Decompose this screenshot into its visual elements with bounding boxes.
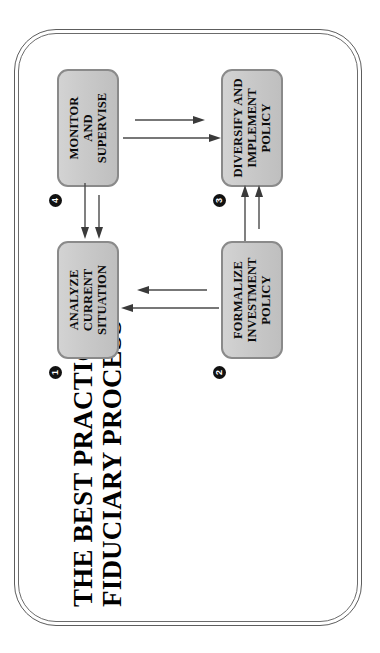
step-badge-2: 2 — [213, 366, 226, 379]
process-node-monitor-and-supervise[interactable]: MONITOR AND SUPERVISE — [57, 69, 119, 187]
process-node-label: ANALYZE CURRENT SITUATION — [67, 261, 110, 337]
process-node-analyze-current-situation[interactable]: ANALYZE CURRENT SITUATION — [57, 241, 119, 359]
connector-arrow-2-to-3 — [237, 183, 267, 241]
diagram-page: THE BEST PRACTICES FIDUCIARY PROCESS ANA… — [0, 0, 380, 653]
connector-arrow-3-to-4 — [119, 109, 223, 145]
process-node-label: FORMALIZE INVESTMENT POLICY — [231, 254, 274, 345]
connector-arrow-4-to-1 — [77, 183, 107, 241]
page-title: THE BEST PRACTICES FIDUCIARY PROCESS — [69, 389, 126, 607]
process-node-label: MONITOR AND SUPERVISE — [67, 89, 110, 166]
process-node-diversify-and-implement-policy[interactable]: DIVERSIFY AND IMPLEMENT POLICY — [221, 69, 283, 187]
step-badge-1: 1 — [49, 366, 62, 379]
process-node-label: DIVERSIFY AND IMPLEMENT POLICY — [231, 75, 274, 180]
connector-arrow-1-to-2 — [119, 279, 223, 315]
step-badge-3: 3 — [213, 194, 226, 207]
diagram-stage: THE BEST PRACTICES FIDUCIARY PROCESS ANA… — [25, 47, 355, 607]
title-line-2: FIDUCIARY PROCESS — [98, 389, 127, 607]
title-line-1: THE BEST PRACTICES — [69, 389, 98, 607]
process-node-formalize-investment-policy[interactable]: FORMALIZE INVESTMENT POLICY — [221, 241, 283, 359]
step-badge-4: 4 — [49, 194, 62, 207]
